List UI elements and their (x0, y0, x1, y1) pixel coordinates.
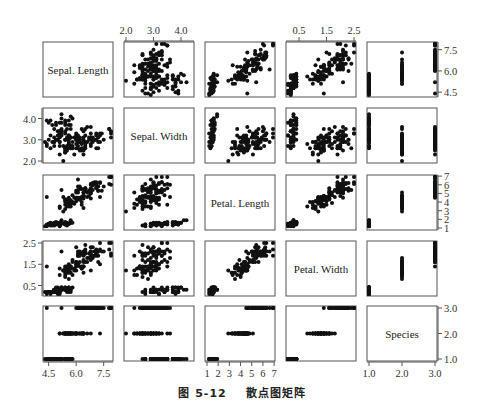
scatter-panel (367, 175, 437, 230)
figure-caption: 图 5-12 散点图矩阵 (0, 384, 484, 400)
tick-label: 2.0 (395, 368, 408, 379)
scatter-panel (124, 306, 194, 361)
tick-label: 6 (260, 368, 265, 379)
scatter-panel (286, 42, 356, 97)
tick-label: 2.5 (347, 25, 360, 36)
axis-top-1: 2.03.04.0 (119, 25, 194, 41)
variable-label: Species (385, 328, 419, 340)
tick-label: 7 (444, 171, 449, 182)
tick-label: 7.5 (97, 368, 110, 379)
tick-label: 3.0 (23, 135, 36, 146)
tick-label: 4.0 (174, 25, 187, 36)
variable-label: Petal. Length (211, 197, 270, 209)
tick-label: 4.5 (42, 368, 55, 379)
scatter-panel (205, 306, 275, 361)
tick-label: 4 (238, 368, 244, 379)
tick-label: 7 (271, 368, 276, 379)
variable-label: Sepal. Length (47, 64, 109, 76)
scatter-panel (205, 108, 275, 163)
scatter-panel (286, 108, 356, 163)
axis-left-3: 0.51.52.5 (23, 238, 42, 296)
scatter-panel (124, 42, 194, 97)
axis-right-0: 4.56.07.5 (438, 42, 457, 98)
tick-label: 5 (249, 368, 254, 379)
tick-label: 3 (227, 368, 232, 379)
figure-number: 图 5-12 (178, 387, 226, 400)
scatter-matrix: Sepal. LengthSepal. WidthPetal. LengthPe… (0, 0, 484, 413)
scatter-panel (367, 241, 437, 296)
diagonal-label-panel: Petal. Width (286, 241, 356, 296)
tick-label: 2.0 (23, 156, 36, 167)
tick-label: 2.5 (23, 238, 36, 249)
tick-label: 1.5 (23, 259, 36, 270)
axis-right-2: 1234567 (438, 171, 450, 234)
tick-label: 7.5 (444, 45, 457, 56)
tick-label: 1.5 (320, 25, 333, 36)
tick-label: 1.0 (362, 368, 375, 379)
axis-bottom-4: 1.02.03.0 (362, 362, 441, 379)
tick-label: 0.5 (292, 25, 305, 36)
axis-top-3: 0.51.52.5 (286, 25, 361, 41)
axis-bottom-2: 1234567 (204, 362, 276, 379)
scatter-panel (43, 175, 113, 230)
scatter-panel (367, 42, 437, 97)
tick-label: 0.5 (23, 281, 36, 292)
tick-label: 6.0 (70, 368, 83, 379)
scatter-panel (124, 175, 194, 230)
tick-label: 6.0 (444, 66, 457, 77)
tick-label: 3.0 (444, 303, 457, 314)
figure-title: 散点图矩阵 (246, 387, 306, 400)
axis-left-1: 2.03.04.0 (23, 108, 42, 167)
tick-label: 2.0 (119, 25, 132, 36)
diagonal-label-panel: Species (367, 306, 437, 361)
axis-bottom-0: 4.56.07.5 (42, 362, 113, 379)
tick-label: 1.0 (444, 354, 457, 365)
tick-label: 3.0 (428, 368, 441, 379)
diagonal-label-panel: Petal. Length (205, 175, 275, 230)
diagonal-label-panel: Sepal. Width (124, 108, 194, 163)
scatter-panel (43, 306, 113, 361)
scatter-panel (205, 42, 275, 97)
tick-label: 2.0 (444, 329, 457, 340)
scatter-panel (43, 241, 113, 296)
scatter-panel (124, 241, 194, 296)
tick-label: 3.0 (147, 25, 160, 36)
scatter-panel (286, 306, 356, 361)
tick-label: 4.0 (23, 114, 36, 125)
tick-label: 1 (204, 368, 209, 379)
scatter-panel (286, 175, 356, 230)
variable-label: Petal. Width (294, 263, 349, 275)
tick-label: 2 (216, 368, 221, 379)
variable-label: Sepal. Width (131, 130, 188, 142)
scatter-panel (367, 108, 437, 163)
scatter-panel (43, 108, 113, 163)
diagonal-label-panel: Sepal. Length (43, 42, 113, 97)
axis-right-4: 1.02.03.0 (438, 303, 457, 365)
tick-label: 4.5 (444, 87, 457, 98)
scatter-panel (205, 241, 275, 296)
